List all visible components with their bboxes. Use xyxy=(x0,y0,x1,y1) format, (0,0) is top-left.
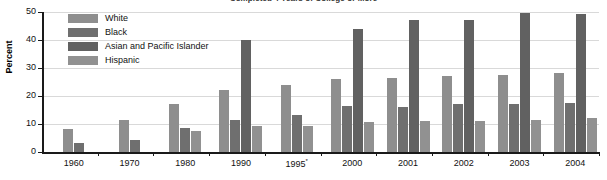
bar xyxy=(498,75,508,152)
legend-swatch xyxy=(68,42,98,51)
bar xyxy=(475,121,485,152)
bar xyxy=(230,120,240,152)
y-tick-label: 20 xyxy=(18,90,36,100)
bar xyxy=(74,143,84,152)
bar xyxy=(576,14,586,152)
x-tick-label: 1970 xyxy=(100,158,160,168)
x-tick-label: 2003 xyxy=(489,158,549,168)
legend-label: Hispanic xyxy=(105,56,140,65)
x-tick-label: 1990 xyxy=(211,158,271,168)
x-tick-mark xyxy=(265,152,266,156)
y-tick-label: 40 xyxy=(18,34,36,44)
bar xyxy=(303,126,313,152)
bar xyxy=(281,85,291,152)
bar xyxy=(442,76,452,152)
legend-label: Black xyxy=(105,28,127,37)
legend: WhiteBlackAsian and Pacific IslanderHisp… xyxy=(68,11,209,67)
bar xyxy=(331,79,341,152)
y-tick-label: 0 xyxy=(18,146,36,156)
y-tick-mark xyxy=(38,40,42,41)
bar xyxy=(169,104,179,152)
legend-item: Black xyxy=(68,25,209,39)
gridline xyxy=(44,68,599,69)
x-tick-mark xyxy=(543,152,544,156)
footnote-marker: * xyxy=(305,158,307,164)
bar-chart: Completed 4 Years of College or More Per… xyxy=(0,0,607,180)
y-tick-mark xyxy=(38,12,42,13)
bar xyxy=(520,13,530,152)
bar xyxy=(63,129,73,152)
legend-swatch xyxy=(68,28,98,37)
bar xyxy=(409,20,419,152)
x-tick-label: 1960 xyxy=(44,158,104,168)
bar xyxy=(292,115,302,152)
bar xyxy=(531,120,541,152)
bar xyxy=(398,107,408,152)
x-tick-label: 2000 xyxy=(322,158,382,168)
bar xyxy=(252,126,262,152)
bar xyxy=(565,103,575,152)
bar xyxy=(509,104,519,152)
bar xyxy=(364,122,374,152)
x-tick-mark xyxy=(488,152,489,156)
y-axis-line xyxy=(42,12,44,152)
bar xyxy=(180,128,190,152)
bar xyxy=(387,78,397,152)
x-tick-mark xyxy=(376,152,377,156)
bar xyxy=(119,120,129,152)
x-tick-mark xyxy=(98,152,99,156)
y-tick-mark xyxy=(38,124,42,125)
chart-title: Completed 4 Years of College or More xyxy=(0,0,607,3)
bar xyxy=(241,40,251,152)
x-tick-label: 2002 xyxy=(434,158,494,168)
x-tick-mark xyxy=(432,152,433,156)
legend-swatch xyxy=(68,56,98,65)
x-tick-label: 1980 xyxy=(155,158,215,168)
bar xyxy=(219,90,229,152)
bar xyxy=(420,121,430,152)
bar xyxy=(554,73,564,152)
x-tick-mark xyxy=(209,152,210,156)
x-tick-label: 1995* xyxy=(267,158,327,169)
bar xyxy=(464,20,474,152)
legend-item: White xyxy=(68,11,209,25)
x-tick-mark xyxy=(599,152,600,156)
y-tick-label: 10 xyxy=(18,118,36,128)
bar xyxy=(587,118,597,152)
x-tick-mark xyxy=(321,152,322,156)
legend-swatch xyxy=(68,14,98,23)
gridline xyxy=(44,96,599,97)
legend-label: Asian and Pacific Islander xyxy=(105,42,209,51)
legend-label: White xyxy=(105,14,128,23)
legend-item: Asian and Pacific Islander xyxy=(68,39,209,53)
bar xyxy=(342,106,352,152)
bar xyxy=(353,29,363,152)
legend-item: Hispanic xyxy=(68,53,209,67)
x-tick-label: 2001 xyxy=(378,158,438,168)
y-tick-label: 50 xyxy=(18,6,36,16)
y-tick-label: 30 xyxy=(18,62,36,72)
y-tick-mark xyxy=(38,68,42,69)
bar xyxy=(130,140,140,152)
y-axis-label: Percent xyxy=(4,31,14,83)
bar xyxy=(191,131,201,152)
y-tick-mark xyxy=(38,152,42,153)
y-tick-mark xyxy=(38,96,42,97)
x-tick-mark xyxy=(153,152,154,156)
x-tick-label: 2004 xyxy=(545,158,605,168)
bar xyxy=(453,104,463,152)
